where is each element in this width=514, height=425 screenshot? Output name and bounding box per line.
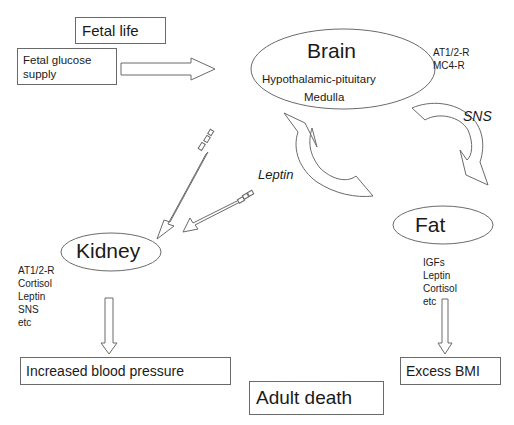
fat-factor-item: IGFs [423,256,457,269]
kidney-factor-item: etc [18,316,55,329]
fat-factor-item: etc [423,295,457,308]
brain-receptor-item: MC4-R [433,59,470,72]
excess-bmi-label: Excess BMI [406,363,480,379]
leptin-arrow-label: Leptin [258,167,293,182]
fetal-glucose-label-line2: supply [23,68,56,80]
excess-bmi-box: Excess BMI [400,357,501,385]
adult-death-box: Adult death [249,381,384,415]
brain-receptors-list: AT1/2-R MC4-R [433,46,470,72]
brain-line1: Hypothalamic-pituitary [262,73,376,85]
fat-title: Fat [415,213,445,237]
arrow-kidney-to-bp [101,298,117,354]
fat-factor-item: Cortisol [423,282,457,295]
fetal-life-label: Fetal life [82,22,139,39]
brain-title: Brain [307,39,356,63]
arrow-brain-to-kidney-1 [157,152,208,239]
increased-bp-box: Increased blood pressure [20,357,231,385]
increased-bp-label: Increased blood pressure [26,363,184,379]
fetal-glucose-label-line1: Fetal glucose [23,54,91,66]
arrow-glucose-to-brain [121,58,215,80]
leptin-curved-arrow [284,113,373,196]
brain-line2: Medulla [304,91,344,103]
kidney-factor-item: Cortisol [18,277,55,290]
kidney-factor-item: Leptin [18,290,55,303]
kidney-title: Kidney [76,239,140,263]
kidney-factors-list: AT1/2-R Cortisol Leptin SNS etc [18,264,55,329]
adult-death-label: Adult death [256,387,352,409]
fat-factor-item: Leptin [423,269,457,282]
fetal-glucose-box: Fetal glucose supply [17,48,117,85]
fat-factors-list: IGFs Leptin Cortisol etc [423,256,457,308]
kidney-factor-item: AT1/2-R [18,264,55,277]
arrow-leptin-to-kidney [183,199,242,232]
sns-arrow-label: SNS [463,108,492,124]
kidney-factor-item: SNS [18,303,55,316]
fetal-life-box: Fetal life [75,17,166,44]
brain-receptor-item: AT1/2-R [433,46,470,59]
